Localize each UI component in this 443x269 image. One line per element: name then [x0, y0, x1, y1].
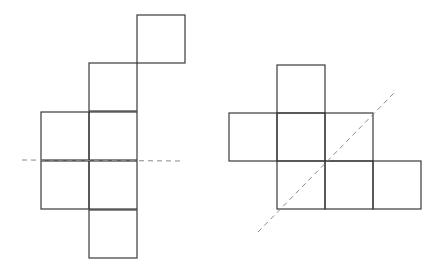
right-figure [229, 65, 421, 232]
symmetry-axis-dashed-line [258, 93, 394, 232]
unit-square [373, 161, 421, 209]
unit-square [89, 210, 137, 258]
diagram-svg [0, 0, 443, 269]
unit-square [41, 161, 89, 209]
unit-square [229, 113, 277, 161]
left-figure [22, 15, 185, 258]
unit-square [137, 15, 185, 63]
unit-square [325, 113, 373, 161]
unit-square [89, 63, 137, 111]
unit-square [277, 65, 325, 113]
unit-square [277, 161, 325, 209]
diagram-canvas [0, 0, 443, 269]
unit-square [277, 113, 325, 161]
unit-square [41, 112, 89, 160]
unit-square [325, 161, 373, 209]
unit-square [89, 161, 137, 209]
unit-square [89, 112, 137, 160]
